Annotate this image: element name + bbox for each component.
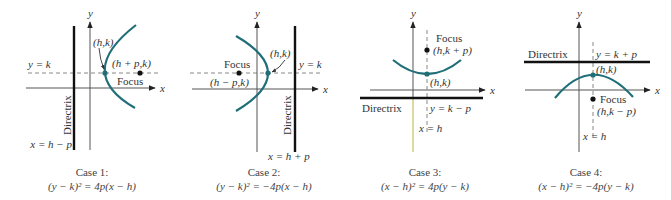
x-axis-label: x — [489, 84, 495, 96]
focus-label: Focus — [117, 75, 143, 87]
y-axis-label: y — [254, 7, 260, 19]
directrix-label: Directrix — [281, 95, 293, 135]
line-label: y = k — [27, 58, 52, 70]
focus-point-label: (h − p,k) — [210, 76, 249, 89]
panel-case-4: y x x = h (h,k) (h,k − p) Focus Directri… — [524, 7, 660, 193]
vertex-point — [590, 72, 595, 77]
caption-equation: (y − k)² = 4p(x − h) — [48, 180, 136, 193]
vertex-pointer-arrow — [272, 60, 285, 72]
focus-label: Focus — [436, 32, 462, 44]
focus-point-label: (h,k + p) — [433, 44, 472, 57]
directrix-equation: x = h − p — [29, 138, 72, 150]
vertex-point — [265, 70, 270, 75]
x-axis-label: x — [654, 84, 660, 96]
caption-title: Case 2: — [248, 166, 281, 178]
directrix-equation: y = k − p — [429, 102, 472, 114]
x-axis-label: x — [322, 83, 328, 95]
y-axis-label: y — [87, 7, 93, 19]
vertex-pointer-arrow — [99, 48, 104, 69]
directrix-equation: y = k + p — [595, 48, 638, 60]
directrix-label: Directrix — [528, 48, 568, 60]
y-axis-label: y — [410, 7, 416, 19]
vertex-point — [424, 71, 429, 76]
vertex-label: (h,k) — [430, 76, 451, 89]
caption-equation: (y − k)² = −4p(x − h) — [216, 180, 312, 193]
focus-label: Focus — [600, 93, 626, 105]
line-label: x = h — [418, 122, 443, 134]
caption-title: Case 1: — [76, 166, 109, 178]
focus-point-label: (h,k − p) — [597, 105, 636, 118]
panel-case-3: y x x = h (h,k) (h,k + p) Focus Directri… — [360, 7, 495, 193]
x-axis-label: x — [159, 82, 165, 94]
vertex-point — [102, 70, 107, 75]
panel-case-1: y x y = k (h,k) (h + p,k) Focus Directri… — [26, 7, 165, 193]
focus-point-label: (h + p,k) — [112, 57, 151, 70]
focus-point — [590, 96, 595, 101]
vertex-label: (h,k) — [270, 47, 291, 60]
line-label: x = h — [582, 130, 607, 142]
vertex-label: (h,k) — [93, 36, 114, 49]
caption-equation: (x − h)² = −4p(y − k) — [538, 180, 634, 193]
focus-point — [236, 70, 241, 75]
vertex-label: (h,k) — [596, 63, 617, 76]
directrix-equation: x = h + p — [267, 150, 310, 162]
caption-title: Case 3: — [409, 166, 442, 178]
focus-point — [424, 47, 429, 52]
directrix-label: Directrix — [362, 102, 402, 114]
line-label: y = k — [298, 58, 323, 70]
directrix-label: Directrix — [61, 95, 73, 135]
panel-case-2: y x y = k (h,k) (h − p,k) Focus Directri… — [190, 7, 328, 193]
caption-title: Case 4: — [570, 166, 603, 178]
parabola-cases-figure: y x y = k (h,k) (h + p,k) Focus Directri… — [0, 0, 671, 200]
caption-equation: (x − h)² = 4p(y − k) — [381, 180, 469, 193]
y-axis-label: y — [576, 7, 582, 19]
focus-label: Focus — [224, 58, 250, 70]
